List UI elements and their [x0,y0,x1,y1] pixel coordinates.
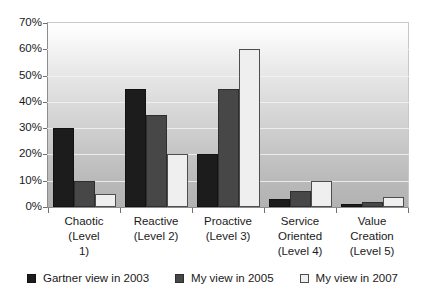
x-axis-tick-mark [48,208,49,213]
y-axis-tick-label: 70% [2,17,42,29]
legend-item-label: My view in 2007 [316,272,398,284]
bar [269,199,290,207]
bar [125,89,146,207]
legend-item[interactable]: Gartner view in 2003 [27,272,149,284]
bar-group [48,23,120,207]
plot-area-wrapper [47,22,409,208]
bar [146,115,167,207]
x-axis-tick-mark [408,208,409,213]
bar [95,194,116,207]
bar-group [264,23,336,207]
bar [383,197,404,208]
bar [311,181,332,207]
bar-chart: 0%10%20%30%40%50%60%70% Chaotic (Level 1… [0,0,425,302]
bar [197,154,218,207]
legend-swatch-darkgray-icon [175,274,184,283]
legend-swatch-black-icon [27,274,36,283]
legend-item[interactable]: My view in 2005 [175,272,273,284]
legend-item[interactable]: My view in 2007 [300,272,398,284]
y-axis-tick-label: 0% [2,201,42,213]
y-axis-tick-label: 40% [2,96,42,108]
bar [362,202,383,207]
bar [53,128,74,207]
x-axis-category-label: Value Creation (Level 5) [336,214,408,259]
x-axis-category-label: Chaotic (Level 1) [48,214,120,259]
x-axis-tick-mark [336,208,337,213]
bar-group [120,23,192,207]
y-axis-tick-label: 30% [2,122,42,134]
y-axis-tick-label: 50% [2,70,42,82]
y-axis-tick-label: 20% [2,149,42,161]
x-axis-tick-mark [192,208,193,213]
x-axis-category-label: Proactive (Level 3) [192,214,264,244]
chart-legend: Gartner view in 2003My view in 2005My vi… [0,272,425,284]
bar [290,191,311,207]
bar [74,181,95,207]
bar [239,49,260,207]
bar-group [336,23,408,207]
bar [341,204,362,207]
legend-item-label: Gartner view in 2003 [43,272,149,284]
legend-item-label: My view in 2005 [191,272,273,284]
bar [218,89,239,207]
y-axis-tick-label: 10% [2,175,42,187]
legend-swatch-white-icon [300,274,309,283]
x-axis-category-label: Reactive (Level 2) [120,214,192,244]
x-axis-tick-mark [264,208,265,213]
x-axis-tick-mark [120,208,121,213]
y-axis-tick-label: 60% [2,44,42,56]
x-axis-category-label: Service Oriented (Level 4) [264,214,336,259]
bar [167,154,188,207]
bar-group [192,23,264,207]
